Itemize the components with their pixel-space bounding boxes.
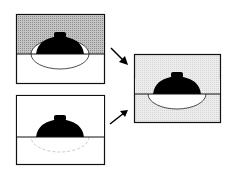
panel-bottom-left xyxy=(17,96,105,165)
lid-knob-icon xyxy=(54,115,66,121)
panel-top-left xyxy=(17,15,105,84)
lid-knob-icon xyxy=(171,72,183,78)
arrow-bottom-to-result xyxy=(110,110,128,124)
panel-result xyxy=(135,55,221,123)
arrow-top-to-result xyxy=(111,48,128,65)
lid-knob-icon xyxy=(54,32,66,38)
diagram-canvas xyxy=(0,0,233,172)
